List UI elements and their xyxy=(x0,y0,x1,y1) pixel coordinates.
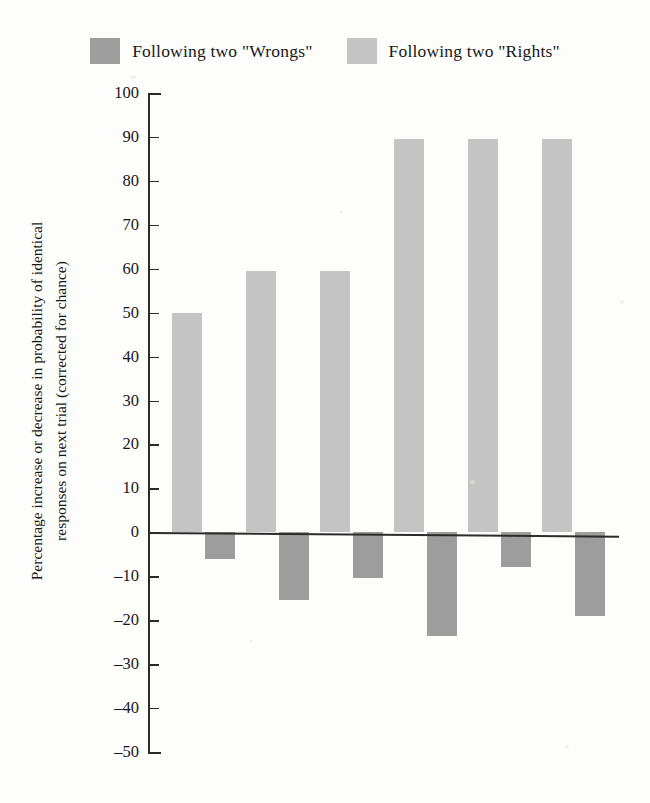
y-axis-title-line-1: Percentage increase or decrease in proba… xyxy=(25,222,49,580)
y-tick-label--50: –50 xyxy=(114,742,139,762)
y-tick-label-80: 80 xyxy=(123,171,140,191)
y-tick-label-30: 30 xyxy=(123,391,140,411)
y-tick-label-60: 60 xyxy=(123,259,140,279)
paper-speck xyxy=(470,480,475,484)
paper-speck xyxy=(565,745,569,748)
y-tick-label-90: 90 xyxy=(123,127,140,147)
y-tick-label-40: 40 xyxy=(123,347,140,367)
bar-rights-5 xyxy=(468,139,498,532)
legend-swatch-wrongs xyxy=(90,38,120,64)
y-tick-40: 40 xyxy=(148,357,159,358)
bar-rights-2 xyxy=(246,271,276,532)
y-tick-20: 20 xyxy=(148,444,159,445)
bar-wrongs-2 xyxy=(279,532,309,600)
bar-wrongs-6 xyxy=(575,532,605,615)
bar-rights-6 xyxy=(542,139,572,532)
legend-item-rights: Following two "Rights" xyxy=(347,38,560,64)
y-tick-80: 80 xyxy=(148,181,159,182)
paper-speck xyxy=(130,75,136,79)
y-tick--20: –20 xyxy=(148,620,159,621)
bar-wrongs-3 xyxy=(353,532,383,578)
y-tick-label-50: 50 xyxy=(123,303,140,323)
y-tick-10: 10 xyxy=(148,488,159,489)
chart-legend: Following two "Wrongs" Following two "Ri… xyxy=(0,38,650,64)
bar-rights-3 xyxy=(320,271,350,532)
paper-speck xyxy=(250,640,253,643)
y-tick--10: –10 xyxy=(148,576,159,577)
y-tick-60: 60 xyxy=(148,269,159,270)
y-tick-90: 90 xyxy=(148,137,159,138)
legend-swatch-rights xyxy=(347,38,377,64)
y-tick--40: –40 xyxy=(148,708,159,709)
y-tick-70: 70 xyxy=(148,225,159,226)
y-tick-label--40: –40 xyxy=(114,698,139,718)
y-tick-label-20: 20 xyxy=(123,434,140,454)
paper-speck xyxy=(620,300,624,304)
y-tick-100: 100 xyxy=(148,93,161,95)
bar-wrongs-1 xyxy=(205,532,235,558)
legend-label-rights: Following two "Rights" xyxy=(389,41,560,62)
paper-speck xyxy=(340,210,343,213)
y-tick--50: –50 xyxy=(148,752,161,754)
y-tick-label-100: 100 xyxy=(114,83,139,103)
y-tick-label-10: 10 xyxy=(123,478,140,498)
y-tick-label--10: –10 xyxy=(114,566,139,586)
figure: Following two "Wrongs" Following two "Ri… xyxy=(0,0,650,803)
y-tick-label-0: 0 xyxy=(131,522,139,542)
y-tick-label--20: –20 xyxy=(114,610,139,630)
y-axis-title: Percentage increase or decrease in proba… xyxy=(18,0,80,803)
y-axis-line xyxy=(148,93,150,752)
bar-wrongs-5 xyxy=(501,532,531,567)
bar-rights-1 xyxy=(172,313,202,533)
y-tick-50: 50 xyxy=(148,313,159,314)
y-tick--30: –30 xyxy=(148,664,159,665)
y-tick-label-70: 70 xyxy=(123,215,140,235)
legend-label-wrongs: Following two "Wrongs" xyxy=(132,41,312,62)
legend-item-wrongs: Following two "Wrongs" xyxy=(90,38,312,64)
plot-area: 1009080706050403020100–10–20–30–40–50 xyxy=(148,93,603,752)
bar-rights-4 xyxy=(394,139,424,532)
y-axis-title-line-2: responses on next trial (corrected for c… xyxy=(49,222,73,580)
y-tick-label--30: –30 xyxy=(114,654,139,674)
y-tick-30: 30 xyxy=(148,401,159,402)
bar-wrongs-4 xyxy=(427,532,457,635)
